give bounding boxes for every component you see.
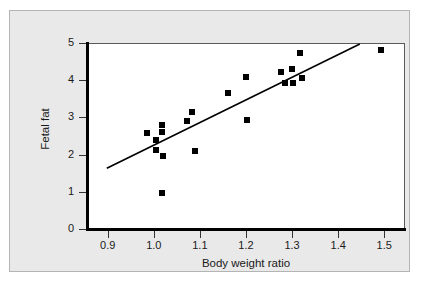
trend-line (87, 44, 405, 230)
x-axis-tick-label: 1.4 (318, 240, 358, 251)
data-point (159, 122, 165, 128)
y-axis-tick (79, 155, 86, 156)
data-point (189, 109, 195, 115)
data-point (159, 129, 165, 135)
data-point (153, 137, 159, 143)
regression-line-segment (107, 44, 360, 168)
y-axis-tick (79, 117, 86, 118)
y-axis-tick-label: 1 (48, 186, 74, 197)
data-point (184, 118, 190, 124)
x-axis-tick-label: 1.2 (226, 240, 266, 251)
data-point (160, 153, 166, 159)
plot-area (87, 43, 405, 229)
data-point (282, 80, 288, 86)
x-axis-tick-label: 1.0 (134, 240, 174, 251)
x-axis-tick-label: 1.3 (272, 240, 312, 251)
data-point (289, 66, 295, 72)
figure-panel: 012345 0.91.01.11.21.31.41.5 Body weight… (9, 10, 410, 272)
data-point (290, 80, 296, 86)
x-axis-tick (338, 231, 339, 238)
data-point (159, 190, 165, 196)
x-axis-tick-label: 0.9 (88, 240, 128, 251)
y-axis-tick-label: 5 (48, 37, 74, 48)
y-axis-tick (79, 80, 86, 81)
x-axis-tick (200, 231, 201, 238)
y-axis-tick (79, 229, 86, 230)
data-point (278, 69, 284, 75)
y-axis-tick-label: 0 (48, 223, 74, 234)
x-axis-tick-label: 1.5 (364, 240, 404, 251)
x-axis-tick (384, 231, 385, 238)
data-point (244, 117, 250, 123)
y-axis-tick (79, 43, 86, 44)
x-axis-tick-label: 1.1 (180, 240, 220, 251)
x-axis-tick (154, 231, 155, 238)
x-axis-tick (292, 231, 293, 238)
data-point (243, 74, 249, 80)
y-axis-title: Fetal fat (39, 89, 51, 169)
y-axis-tick (79, 192, 86, 193)
data-point (297, 50, 303, 56)
data-point (144, 130, 150, 136)
data-point (192, 148, 198, 154)
x-axis-title: Body weight ratio (87, 257, 405, 269)
data-point (378, 47, 384, 53)
data-point (153, 147, 159, 153)
data-point (299, 75, 305, 81)
y-axis-line (86, 42, 89, 231)
y-axis-tick-label: 4 (48, 74, 74, 85)
data-point (225, 90, 231, 96)
x-axis-tick (246, 231, 247, 238)
figure-root: 012345 0.91.01.11.21.31.41.5 Body weight… (0, 0, 430, 292)
y-axis-tick-label: 2 (48, 149, 74, 160)
x-axis-tick (108, 231, 109, 238)
y-axis-tick-label: 3 (48, 111, 74, 122)
